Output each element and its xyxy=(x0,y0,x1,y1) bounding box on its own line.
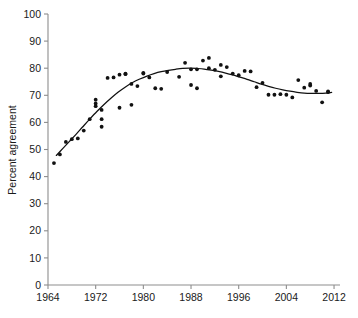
data-point xyxy=(195,67,199,71)
y-tick-label: 70 xyxy=(29,89,41,101)
x-tick-label: 1988 xyxy=(179,291,203,303)
trend-line xyxy=(56,68,331,155)
y-tick-label: 100 xyxy=(23,8,41,20)
data-point xyxy=(273,93,277,97)
data-point xyxy=(326,90,330,94)
data-point xyxy=(279,92,283,96)
data-point xyxy=(118,73,122,77)
data-point xyxy=(207,66,211,70)
data-point xyxy=(165,70,169,74)
y-tick-label: 40 xyxy=(29,170,41,182)
data-point xyxy=(189,83,193,87)
data-point xyxy=(100,108,104,112)
y-tick-label: 20 xyxy=(29,224,41,236)
data-point xyxy=(302,86,306,90)
data-point xyxy=(219,74,223,78)
y-tick-label: 90 xyxy=(29,35,41,47)
data-point xyxy=(70,137,74,141)
data-point xyxy=(213,68,217,72)
y-tick-label: 10 xyxy=(29,252,41,264)
data-point xyxy=(153,86,157,90)
x-tick-label: 1980 xyxy=(132,291,156,303)
data-point xyxy=(94,104,98,108)
data-point xyxy=(52,161,56,165)
data-point xyxy=(183,61,187,65)
data-point xyxy=(261,81,265,85)
data-point xyxy=(201,59,205,63)
data-point xyxy=(320,100,324,104)
y-axis-title: Percent agreement xyxy=(6,105,18,194)
y-tick-label: 60 xyxy=(29,116,41,128)
data-points xyxy=(52,56,330,165)
data-point xyxy=(118,106,122,110)
data-point xyxy=(314,89,318,93)
data-point xyxy=(219,63,223,67)
data-point xyxy=(177,75,181,79)
data-point xyxy=(267,93,271,97)
data-point xyxy=(237,73,241,77)
data-point xyxy=(147,76,151,80)
x-tick-label: 2012 xyxy=(322,291,346,303)
data-point xyxy=(284,93,288,97)
y-axis-ticks: 0102030405060708090100 xyxy=(23,8,48,291)
y-tick-label: 80 xyxy=(29,62,41,74)
data-point xyxy=(124,72,128,76)
data-point xyxy=(82,129,86,133)
data-point xyxy=(100,125,104,129)
data-point xyxy=(88,117,92,121)
data-point xyxy=(58,152,62,156)
x-axis-ticks: 1964197219801988199620042012 xyxy=(36,285,346,303)
data-point xyxy=(207,56,211,60)
data-point xyxy=(130,82,134,86)
data-point xyxy=(159,87,163,91)
data-point xyxy=(308,82,312,86)
data-point xyxy=(130,103,134,107)
y-tick-label: 30 xyxy=(29,197,41,209)
data-point xyxy=(106,76,110,80)
data-point xyxy=(243,69,247,73)
y-tick-label: 0 xyxy=(35,279,41,291)
data-point xyxy=(94,98,98,102)
x-tick-label: 1996 xyxy=(227,291,251,303)
y-tick-label: 50 xyxy=(29,143,41,155)
data-point xyxy=(249,70,253,74)
data-point xyxy=(255,85,259,89)
data-point xyxy=(141,72,145,76)
data-point xyxy=(231,72,235,76)
figure-container: 0102030405060708090100 19641972198019881… xyxy=(0,0,358,318)
data-point xyxy=(76,136,80,140)
data-point xyxy=(195,86,199,90)
data-point xyxy=(225,65,229,69)
x-tick-label: 1972 xyxy=(84,291,108,303)
data-point xyxy=(100,117,104,121)
data-point xyxy=(135,84,139,88)
scatter-chart: 0102030405060708090100 19641972198019881… xyxy=(0,0,358,318)
data-point xyxy=(290,96,294,100)
data-point xyxy=(296,78,300,82)
data-point xyxy=(64,140,68,144)
x-tick-label: 1964 xyxy=(36,291,60,303)
data-point xyxy=(112,76,116,80)
data-point xyxy=(189,67,193,71)
x-tick-label: 2004 xyxy=(275,291,299,303)
